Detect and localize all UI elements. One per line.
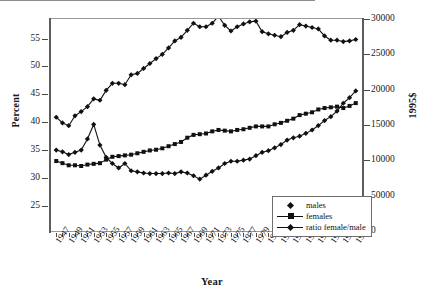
legend-item: females <box>277 211 366 222</box>
y-axis-right-tick-label: 15000 <box>371 120 395 130</box>
y-axis-left-tick-label: 30 <box>10 173 40 183</box>
x-axis-title: Year <box>0 276 424 287</box>
chart-legend: malesfemalesratio female/male <box>272 196 372 237</box>
y-axis-left-tick <box>42 150 48 151</box>
x-axis-spine <box>0 0 315 1</box>
y-axis-right-tick-label: 50000 <box>371 191 395 201</box>
y-axis-right-tick <box>364 54 370 55</box>
y-axis-left-tick <box>42 94 48 95</box>
chart-figure: 25303540455055 0500001000015000200002500… <box>0 0 424 295</box>
legend-item-label: females <box>303 212 332 221</box>
legend-item: males <box>277 200 366 211</box>
y-axis-right-title: 1995$ <box>407 76 418 136</box>
y-axis-left-tick-label: 50 <box>10 61 40 71</box>
legend-marker-diamond-icon <box>277 222 303 233</box>
y-axis-left-tick-label: 35 <box>10 145 40 155</box>
y-axis-right-tick <box>364 19 370 20</box>
y-axis-right-tick-label: 20000 <box>371 85 395 95</box>
y-axis-right-tick-label: 10000 <box>371 155 395 165</box>
y-axis-left-tick <box>42 39 48 40</box>
legend-marker-diamond-icon <box>277 200 303 211</box>
y-axis-left-tick-label: 55 <box>10 34 40 44</box>
y-axis-right-tick-label: 30000 <box>371 14 395 24</box>
y-axis-right-tick <box>364 160 370 161</box>
y-axis-left-tick <box>42 178 48 179</box>
legend-item-label: ratio female/male <box>303 223 366 232</box>
y-axis-left-tick <box>42 122 48 123</box>
series-females <box>54 101 358 168</box>
y-axis-right-tick-label: 25000 <box>371 49 395 59</box>
y-axis-left-tick <box>42 206 48 207</box>
y-axis-left-tick <box>42 66 48 67</box>
legend-item-label: males <box>303 201 326 210</box>
y-axis-left-tick-label: 25 <box>10 201 40 211</box>
y-axis-right-tick <box>364 125 370 126</box>
y-axis-left-spine <box>49 18 51 233</box>
y-axis-right-tick <box>364 90 370 91</box>
legend-item: ratio female/male <box>277 222 366 233</box>
legend-marker-square-icon <box>277 211 303 222</box>
y-axis-left-title: Percent <box>10 76 21 146</box>
